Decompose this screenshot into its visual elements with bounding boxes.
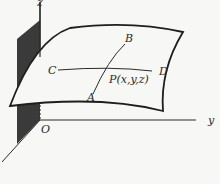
label-origin: O	[41, 123, 50, 136]
label-d: D	[158, 65, 168, 78]
label-z: z	[36, 0, 43, 9]
label-y: y	[207, 114, 215, 127]
label-b: B	[124, 32, 133, 45]
label-c: C	[48, 64, 57, 77]
label-a: A	[86, 91, 95, 104]
surface-diagram: z y O C D A B P(x,y,z)	[0, 0, 220, 184]
label-p: P(x,y,z)	[108, 73, 149, 86]
